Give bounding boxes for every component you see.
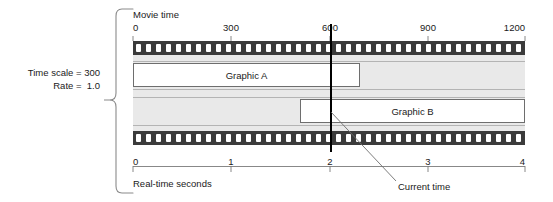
current-time-label: Current time bbox=[398, 181, 450, 192]
movie-timeline-figure: Time scale = 300 Rate = 1.0 Movie time 0… bbox=[0, 0, 553, 202]
current-time-leader-line bbox=[0, 0, 553, 202]
